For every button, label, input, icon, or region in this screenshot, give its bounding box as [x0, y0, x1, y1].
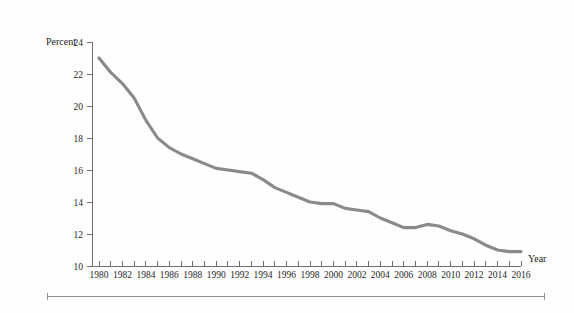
y-axis-tick-labels: 2422201816141210 [74, 38, 84, 272]
y-tick-label: 22 [74, 70, 84, 80]
x-tick-label: 1980 [90, 270, 109, 280]
y-tick-label: 20 [74, 102, 84, 112]
line-chart: 2422201816141210 19801982198419861988199… [0, 0, 574, 313]
y-tick-label: 16 [74, 166, 84, 176]
y-tick-label: 14 [74, 198, 84, 208]
y-axis-title: Percent [46, 36, 76, 47]
x-tick-label: 2012 [465, 270, 484, 280]
x-tick-label: 1986 [160, 270, 179, 280]
x-axis-tick-labels: 1980198219841986198819901992199419961998… [90, 270, 531, 280]
x-tick-label: 2004 [371, 270, 390, 280]
footer-divider-rule [47, 296, 545, 297]
y-tick-label: 10 [74, 262, 84, 272]
figure-container: 2422201816141210 19801982198419861988199… [0, 0, 574, 313]
data-series-line [99, 58, 521, 252]
x-axis-title: Year [528, 253, 547, 264]
x-tick-label: 2010 [441, 270, 460, 280]
x-tick-label: 2016 [512, 270, 531, 280]
x-tick-label: 2002 [347, 270, 366, 280]
x-tick-label: 1998 [301, 270, 320, 280]
x-axis-tick-marks [99, 261, 521, 266]
x-tick-label: 1982 [113, 270, 132, 280]
x-tick-label: 2014 [488, 270, 507, 280]
x-tick-label: 2006 [394, 270, 413, 280]
x-tick-label: 1984 [136, 270, 155, 280]
x-tick-label: 1994 [254, 270, 273, 280]
x-tick-label: 2000 [324, 270, 343, 280]
footer-rule-left-cap [47, 293, 48, 300]
x-tick-label: 2008 [418, 270, 437, 280]
y-tick-label: 18 [74, 134, 84, 144]
y-axis-tick-marks [87, 42, 92, 266]
x-tick-label: 1990 [207, 270, 226, 280]
x-tick-label: 1996 [277, 270, 296, 280]
footer-rule-right-cap [544, 293, 545, 300]
x-tick-label: 1988 [183, 270, 202, 280]
x-tick-label: 1992 [230, 270, 249, 280]
y-tick-label: 12 [74, 230, 84, 240]
